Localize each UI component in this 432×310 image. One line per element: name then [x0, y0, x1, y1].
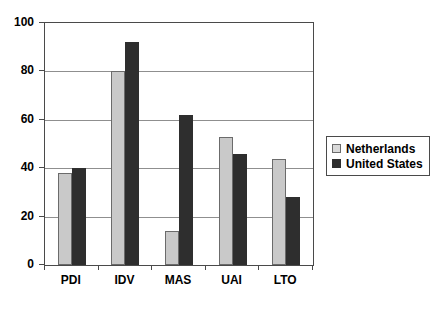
bar-idv-netherlands: [111, 71, 125, 265]
bar-mas-united-states: [179, 115, 193, 265]
legend-swatch-united-states-icon: [332, 159, 341, 168]
y-tick-label: 100: [0, 16, 34, 28]
plot-area: [44, 22, 314, 266]
x-tick-mark: [44, 265, 45, 270]
y-tick-label: 80: [0, 64, 34, 76]
x-tick-mark: [151, 265, 152, 270]
x-tick-mark: [205, 265, 206, 270]
bar-pdi-united-states: [72, 168, 86, 265]
legend-item-united-states: United States: [332, 156, 423, 171]
y-tick-label: 20: [0, 210, 34, 222]
x-tick-label-uai: UAI: [205, 274, 259, 286]
bar-chart: 020406080100 PDIIDVMASUAILTO Netherlands…: [0, 0, 432, 310]
x-tick-label-mas: MAS: [151, 274, 205, 286]
bar-idv-united-states: [125, 42, 139, 265]
bar-lto-united-states: [286, 197, 300, 265]
x-tick-mark: [258, 265, 259, 270]
y-tick-label: 40: [0, 161, 34, 173]
y-tick-label: 0: [0, 258, 34, 270]
legend-label-united-states: United States: [346, 158, 423, 170]
bar-pdi-netherlands: [58, 173, 72, 265]
bar-mas-netherlands: [165, 231, 179, 265]
x-tick-label-lto: LTO: [258, 274, 312, 286]
chart-legend: Netherlands United States: [326, 136, 430, 176]
gridline: [45, 71, 313, 72]
x-tick-label-pdi: PDI: [44, 274, 98, 286]
x-tick-label-idv: IDV: [98, 274, 152, 286]
bar-uai-united-states: [233, 154, 247, 265]
legend-swatch-netherlands-icon: [332, 144, 341, 153]
legend-label-netherlands: Netherlands: [346, 143, 415, 155]
x-tick-mark: [312, 265, 313, 270]
bar-uai-netherlands: [219, 137, 233, 265]
y-tick-label: 60: [0, 113, 34, 125]
x-tick-mark: [98, 265, 99, 270]
bar-lto-netherlands: [272, 159, 286, 265]
legend-item-netherlands: Netherlands: [332, 141, 423, 156]
